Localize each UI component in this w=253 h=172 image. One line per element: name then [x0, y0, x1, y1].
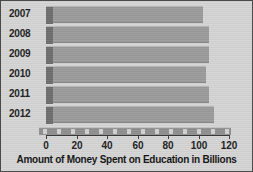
bar-chart: 2007 2008 2009 2010	[0, 0, 253, 172]
bar-track-2008	[46, 26, 253, 43]
x-axis: 0 20 40 60 80 100 120	[1, 127, 253, 153]
tick-label-120: 120	[214, 140, 244, 152]
tick-label-60: 60	[123, 140, 153, 152]
bar-cap-2008	[46, 27, 53, 44]
bar-track-2012	[46, 106, 253, 123]
bar-row: 2009	[1, 45, 253, 64]
tick-mark-100	[199, 135, 200, 139]
category-label-2009: 2009	[9, 47, 43, 61]
bar-row: 2012	[1, 105, 253, 124]
bar-2012	[46, 106, 214, 123]
bar-2008	[46, 26, 209, 43]
tick-mark-0	[46, 135, 47, 139]
tick-label-40: 40	[92, 140, 122, 152]
bar-row: 2007	[1, 5, 253, 24]
tick-label-20: 20	[62, 140, 92, 152]
plot-area: 2007 2008 2009 2010	[1, 5, 253, 129]
bar-track-2007	[46, 6, 253, 23]
bar-cap-2012	[46, 107, 53, 124]
bar-track-2010	[46, 66, 253, 83]
bar-row: 2008	[1, 25, 253, 44]
bar-2007	[46, 6, 203, 23]
bar-cap-2007	[46, 7, 53, 24]
tick-mark-120	[229, 135, 230, 139]
bar-2009	[46, 46, 209, 63]
tick-mark-60	[138, 135, 139, 139]
bar-cap-2010	[46, 67, 53, 84]
tick-mark-80	[168, 135, 169, 139]
tick-mark-20	[77, 135, 78, 139]
bar-2010	[46, 66, 206, 83]
axis-band	[39, 127, 231, 135]
category-label-2012: 2012	[9, 107, 43, 121]
bar-cap-2009	[46, 47, 53, 64]
bar-row: 2011	[1, 85, 253, 104]
x-axis-title: Amount of Money Spent on Education in Bi…	[1, 153, 252, 167]
bar-track-2011	[46, 86, 253, 103]
bar-2011	[46, 86, 209, 103]
bar-track-2009	[46, 46, 253, 63]
tick-mark-40	[107, 135, 108, 139]
bar-row: 2010	[1, 65, 253, 84]
tick-label-0: 0	[31, 140, 61, 152]
bar-cap-2011	[46, 87, 53, 104]
tick-label-80: 80	[153, 140, 183, 152]
category-label-2011: 2011	[9, 87, 43, 101]
tick-label-100: 100	[184, 140, 214, 152]
category-label-2008: 2008	[9, 27, 43, 41]
category-label-2010: 2010	[9, 67, 43, 81]
category-label-2007: 2007	[9, 7, 43, 21]
